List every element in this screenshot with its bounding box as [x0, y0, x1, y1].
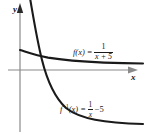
inverse-function-graph-figure: y x f(x) = 1 x + 5 f−1(x) = 1 x −5 [0, 0, 146, 138]
x-axis [8, 67, 138, 74]
equation-finv-numerator: 1 [88, 101, 94, 109]
equation-f-numerator: 1 [101, 43, 107, 52]
x-axis-label: x [131, 73, 136, 82]
equation-finv-value: 5 [100, 104, 104, 114]
equation-finv-fraction: 1 x [88, 101, 94, 118]
equation-finv-tail: −5 [95, 105, 104, 114]
equation-finv-equals: = [81, 105, 86, 114]
equation-f-lhs: f(x) [73, 48, 85, 57]
y-axis-label: y [13, 5, 17, 14]
equation-label-f-inverse: f−1(x) = 1 x −5 [60, 101, 104, 118]
equation-finv-denominator: x [88, 110, 93, 118]
equation-finv-lhs: f−1(x) [60, 105, 78, 114]
equation-f-equals: = [87, 48, 92, 57]
y-axis [17, 3, 23, 132]
equation-f-denominator: x + 5 [94, 53, 113, 62]
equation-label-f: f(x) = 1 x + 5 [73, 43, 113, 61]
equation-f-fraction: 1 x + 5 [94, 43, 113, 61]
equation-finv-arg: (x) [69, 104, 78, 114]
